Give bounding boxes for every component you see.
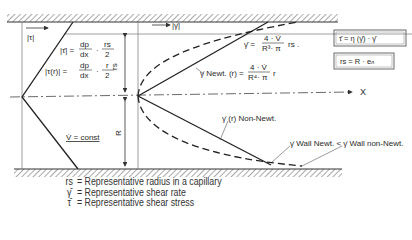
svg-text:·: · (96, 46, 99, 55)
box-formula-1: τ̄ = η (γ̄) · γ̄ (334, 30, 406, 46)
legend: rs = Representative radius in a capillar… (64, 177, 222, 209)
tau-bar-eq-lhs: |τ̄| = (60, 46, 75, 55)
legend-item-tau: τ̄ = Representative shear stress (64, 198, 222, 209)
box-formula-2: rs = R · eₙ (334, 53, 394, 69)
tau-bar-eq-frac-num: rs (104, 40, 111, 49)
wall-compare-label: γ̇ Wall Newt. < γ̇ Wall non-Newt. (290, 139, 403, 148)
tau-bar-eq-num: dp (80, 40, 89, 49)
tau-abs-label: |τ| (27, 33, 34, 42)
tau-r-eq-lhs: |τ(r)| = (45, 67, 68, 76)
leader-wall-newt (272, 146, 290, 162)
dim-R-label: R (114, 130, 123, 136)
gamma-newt-lhs: γ̇ Newt. (r) = (200, 69, 244, 78)
svg-text:·: · (96, 67, 99, 76)
tau-r-eq-frac-num: r (106, 61, 109, 70)
gamma-nonnewt-label: γ̇ (r) Non-Newt. (222, 114, 276, 123)
tau-r-eq-num: dp (80, 61, 89, 70)
dim-rs-label: rs (110, 63, 119, 70)
gamma-bar-eq-num: 4 · V̇ (264, 34, 282, 43)
gamma-bar-eq-den: R³· π (262, 44, 281, 53)
leader-wall-nonnewt (302, 146, 342, 166)
gamma-newt-den: R⁴· π (248, 73, 268, 82)
tau-bar-eq-den: dx (80, 50, 88, 59)
tau-r-eq-frac-den: 2 (105, 71, 110, 80)
gamma-bar-eq-lhs: γ̄ = (244, 40, 255, 49)
gamma-newt-num: 4 · V̇ (250, 63, 268, 72)
newt-shear-rate-lower (138, 96, 271, 165)
newt-shear-rate-upper (138, 22, 268, 96)
tau-r-eq-den: dx (80, 71, 88, 80)
shear-stress-profile (22, 22, 78, 169)
nonnewt-shear-rate-lower (138, 96, 302, 166)
leader-nonnewt (220, 121, 228, 140)
tau-bar-eq-frac-den: 2 (105, 50, 110, 59)
gamma-newt-tail: r (273, 69, 276, 78)
gamma-abs-label: |γ̇| (172, 21, 180, 30)
x-axis-label: X (360, 87, 366, 97)
svg-text:τ̄ = η (γ̄) · γ̄: τ̄ = η (γ̄) · γ̄ (339, 34, 377, 43)
svg-text:rs = R · eₙ: rs = R · eₙ (340, 57, 374, 66)
gamma-bar-eq-tail: rs . (288, 40, 299, 49)
vdot-const-label: V̇ = const (66, 133, 100, 142)
x-axis (10, 92, 352, 97)
